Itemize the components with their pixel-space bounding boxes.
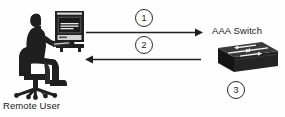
remote-user-label: Remote User — [3, 100, 60, 111]
aaa-switch-label: AAA Switch — [212, 25, 262, 36]
diagram-canvas: Remote User AAA Switch 1 2 3 — [0, 0, 285, 117]
step-number-1: 1 — [135, 9, 153, 27]
step-number-3: 3 — [227, 81, 245, 99]
aaa-switch-icon — [218, 42, 278, 72]
arrow-switch-to-user — [85, 56, 201, 64]
step-number-2: 2 — [135, 36, 153, 54]
remote-user-icon — [14, 11, 84, 100]
